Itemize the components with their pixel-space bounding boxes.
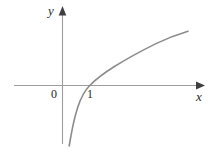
x-axis-label: x [196, 90, 202, 103]
graph-canvas [0, 0, 217, 150]
y-axis-label: y [48, 4, 54, 17]
y-axis-arrowhead [59, 6, 67, 16]
x-tick-label-1: 1 [87, 88, 93, 100]
origin-tick-label: 0 [51, 88, 57, 100]
log-function-graph-figure: y x 0 1 [0, 0, 217, 150]
